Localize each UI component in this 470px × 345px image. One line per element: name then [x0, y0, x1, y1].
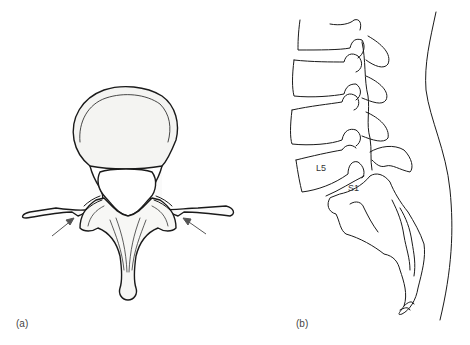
panel-b-spine [291, 12, 452, 320]
l5-s1-facet [370, 146, 412, 172]
right-arrowhead-icon [183, 218, 191, 225]
spinous-process-l3 [362, 112, 388, 141]
figure-canvas [0, 0, 470, 345]
vertebra-l1 [298, 20, 364, 58]
vertebra-l2-top [294, 54, 362, 72]
vertebra-l3 [291, 110, 361, 146]
vertebra-label-l5: L5 [316, 163, 326, 173]
panel-a-vertebra [23, 87, 234, 300]
panel-label-a: (a) [16, 318, 28, 329]
coccyx [400, 302, 414, 310]
vertebra-l5-top [296, 145, 356, 160]
vertebral-body [73, 87, 177, 169]
vertebra-label-s1: S1 [348, 183, 359, 193]
spinous-process-l1 [366, 36, 389, 67]
vertebra-l1-top [330, 20, 361, 30]
panel-label-b: (b) [296, 318, 308, 329]
sacral-foramina-line-2 [400, 208, 415, 276]
sacral-ala [350, 202, 378, 232]
back-contour [426, 12, 452, 320]
sacrum [328, 174, 425, 315]
